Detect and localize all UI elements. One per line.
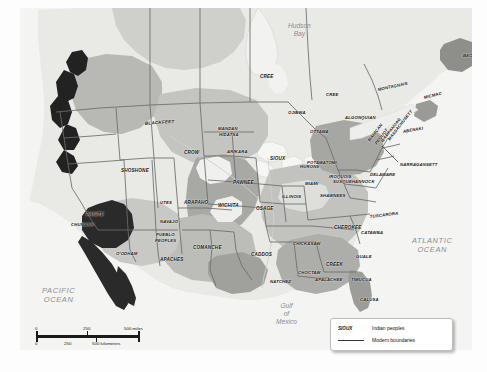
map-screenshot: HudsonBayPACIFICOCEANATLANTICOCEANGulfof…	[0, 0, 487, 372]
region-ohio-valley	[278, 180, 330, 212]
legend-row-peoples: SIOUX Indian peoples	[338, 325, 405, 331]
nova-scotia	[414, 100, 438, 122]
pacific-ocean: PACIFICOCEAN	[42, 286, 75, 305]
atlantic-ocean-line: OCEAN	[412, 245, 453, 254]
pacific-ocean-line: PACIFIC	[42, 286, 75, 295]
hudson-bay-line: Hudson	[288, 22, 311, 30]
legend-boundaries-desc: Modern boundaries	[372, 337, 415, 343]
scale-tick-mid-miles	[87, 331, 88, 336]
hudson-bay: HudsonBay	[288, 22, 311, 38]
map-legend: SIOUX Indian peoples Modern boundaries	[330, 318, 453, 351]
gulf-of-mexico-line: Mexico	[276, 318, 297, 326]
atlantic-ocean: ATLANTICOCEAN	[412, 236, 453, 255]
gulf-of-mexico-line: of	[276, 310, 297, 318]
scale-km-start: 0	[35, 341, 37, 346]
atlantic-ocean-line: ATLANTIC	[412, 236, 453, 245]
legend-row-boundaries: Modern boundaries	[338, 337, 415, 343]
scale-bar: 0 250 500 miles 0 250 500 kilometers	[36, 325, 156, 351]
scale-miles-start: 0	[35, 326, 37, 331]
legend-peoples-desc: Indian peoples	[372, 325, 405, 331]
scale-tick-end	[138, 331, 140, 342]
map-plate: HudsonBayPACIFICOCEANATLANTICOCEANGulfof…	[20, 8, 472, 350]
scale-miles-end: 500 miles	[124, 326, 143, 331]
scale-miles-mid: 250	[83, 326, 90, 331]
legend-peoples-key: SIOUX	[338, 326, 364, 331]
legend-boundary-line-icon	[338, 340, 364, 341]
hudson-bay-line: Bay	[288, 30, 311, 38]
scale-km-end: 500 kilometers	[92, 341, 121, 346]
pacific-ocean-line: OCEAN	[42, 295, 75, 304]
gulf-of-mexico: GulfofMexico	[276, 302, 297, 327]
gulf-of-mexico-line: Gulf	[276, 302, 297, 310]
narragansett-leader	[382, 146, 398, 162]
map-geometry	[20, 8, 472, 350]
scale-km-mid: 250	[64, 341, 71, 346]
